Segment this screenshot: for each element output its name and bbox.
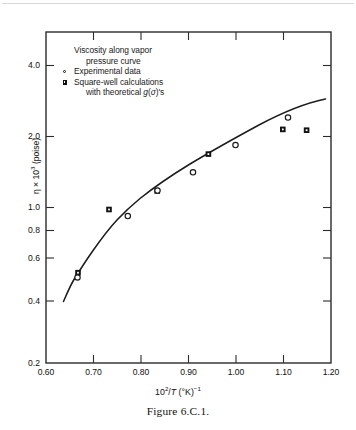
data-point-square	[304, 127, 310, 133]
legend-title-line-1: Viscosity along vapor	[62, 45, 237, 56]
legend-entry-label: Experimental data	[74, 66, 141, 76]
legend-entry-label: Square-well calculations	[74, 77, 163, 87]
data-point-circle	[285, 115, 290, 120]
y-tick-label-0.8: 0.8	[0, 225, 40, 235]
figure-caption: Figure 6.C.1.	[0, 405, 356, 417]
x-tick-label-0.80: 0.80	[121, 367, 161, 377]
data-point-circle	[233, 142, 238, 147]
y-tick-label-0.2: 0.2	[0, 358, 40, 368]
data-point-circle	[125, 213, 130, 218]
legend-entry-experimental: Experimental data	[62, 66, 237, 77]
data-point-square	[206, 151, 212, 157]
x-tick-label-0.70: 0.70	[74, 367, 114, 377]
filled-square-icon	[63, 80, 68, 85]
open-circle-icon	[63, 70, 66, 73]
data-point-square	[280, 127, 286, 133]
data-point-square	[106, 207, 112, 213]
figure-container: Viscosity along vapor pressure curve Exp…	[0, 0, 356, 430]
y-tick-label-0.6: 0.6	[0, 253, 40, 263]
x-tick-label-0.60: 0.60	[26, 367, 66, 377]
x-tick-label-0.90: 0.90	[169, 367, 209, 377]
data-point-circle	[75, 275, 80, 280]
y-tick-label-0.4: 0.4	[0, 296, 40, 306]
x-axis-title: 102/T (°K)−1	[0, 385, 356, 397]
legend-entry-sub-line: with theoretical g(σ)'s	[62, 87, 237, 98]
x-tick-label-1.00: 1.00	[216, 367, 256, 377]
data-point-circle	[155, 188, 160, 193]
chart-legend: Viscosity along vapor pressure curve Exp…	[62, 45, 237, 98]
legend-title-line-2: pressure curve	[62, 56, 237, 67]
y-axis-title: η × 103 (poise)	[29, 111, 41, 221]
legend-entry-square-well: Square-well calculations	[62, 77, 237, 88]
x-tick-label-1.10: 1.10	[264, 367, 304, 377]
y-tick-label-4.0: 4.0	[0, 60, 40, 70]
data-point-circle	[190, 170, 195, 175]
x-tick-label-1.20: 1.20	[311, 367, 351, 377]
